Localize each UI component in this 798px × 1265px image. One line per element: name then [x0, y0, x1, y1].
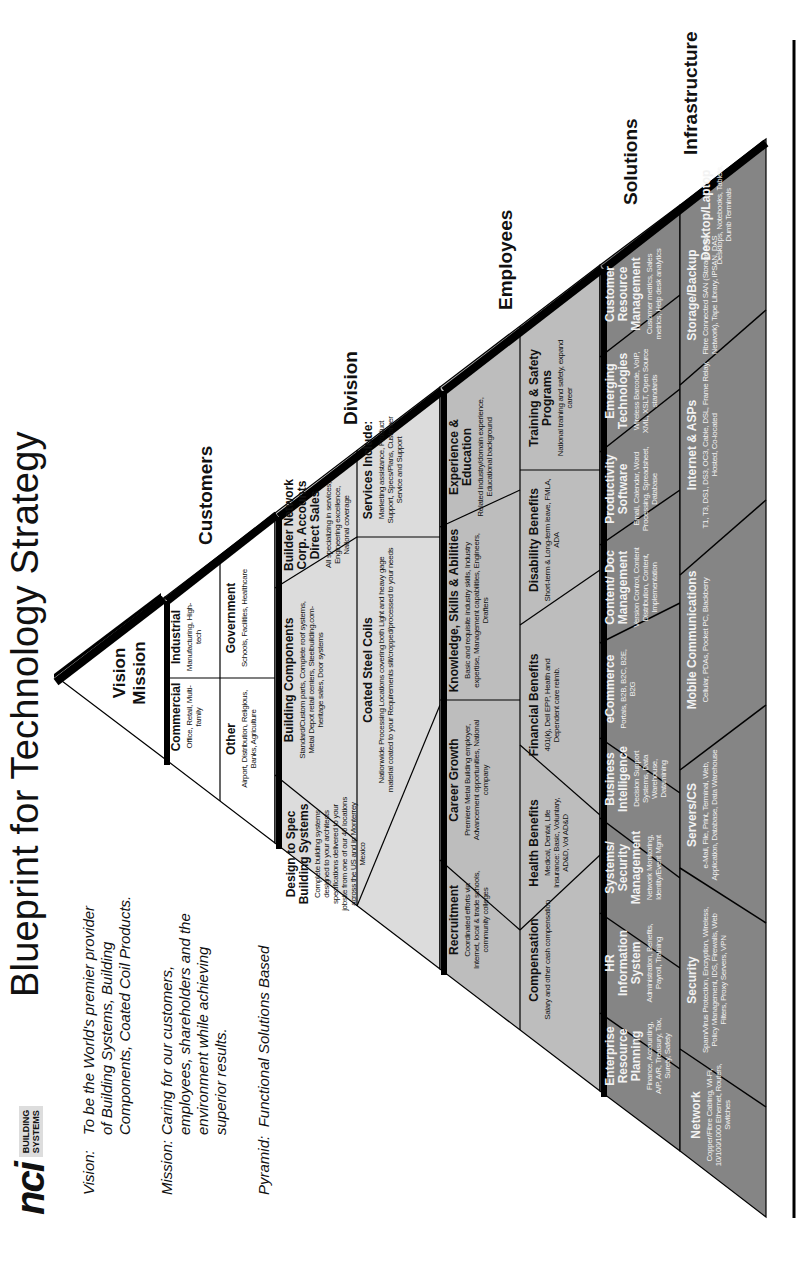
tier-label-infrastructure: Infrastructure — [680, 31, 702, 155]
company-logo: nci BUILDING SYSTEMS — [8, 1106, 53, 1215]
customer-government: Government Schools, Facilities, Healthca… — [225, 563, 249, 673]
cell-title: Business Intelligence — [604, 741, 630, 817]
cell-desc: Marketing assistance, Product Support, S… — [377, 410, 404, 530]
cell-desc: Customer metrics, Sales metrics, Help de… — [645, 248, 663, 340]
cell-title: Commercial — [170, 681, 183, 753]
cell-title: Emerging Technologies — [604, 343, 630, 439]
apex-vision-mission: Vision Mission — [110, 628, 150, 718]
cell-title: HR Information System — [604, 923, 643, 1003]
infra-servers-cs: Servers/CS e-Mail, File, Print, Terminal… — [686, 745, 719, 885]
cell-title: Servers/CS — [686, 745, 699, 885]
cell-title: Recruitment — [448, 870, 461, 970]
cell-title: Training & Safety Programs — [528, 333, 554, 463]
infra-mobile-communications: Mobile Communications Cellular, PDAs, Po… — [686, 550, 710, 730]
solution-erp: Enterprise Resource Planning Finance, Ac… — [604, 1017, 672, 1095]
cell-title: Disability Benefits — [528, 475, 541, 605]
mission-line: superior results. — [212, 885, 230, 1135]
cell-title: Building Components — [283, 595, 296, 765]
tier-label-solutions: Solutions — [620, 118, 642, 205]
vision-text: To be the World's premier provider of Bu… — [80, 885, 134, 1135]
cell-title: Industrial — [170, 601, 183, 673]
cell-desc: Short-term & Long-term leave, FMLA, ADA — [543, 475, 561, 605]
customer-commercial: Commercial Office, Retail, Multi-family — [170, 681, 203, 753]
cell-desc: T1, T3, DS1, DS3, OC3, Cable, DSL, Frame… — [701, 360, 719, 530]
cell-desc: Standard/Custom parts, Complete roof sys… — [298, 595, 325, 765]
cell-desc: Related industry/domain experience, Educ… — [476, 397, 494, 517]
cell-desc: Medical, Dental, Life Insurance: Basic, … — [543, 793, 570, 893]
cell-desc: Spam/Virus Protection, Encryption, Wirel… — [701, 905, 728, 1055]
cell-title: Career Growth — [448, 705, 461, 855]
cell-desc: Email, Calendar, Word Processing, Spread… — [632, 443, 659, 535]
cell-desc: Basic and requisite industry skills, Ind… — [463, 528, 490, 693]
cell-desc: All specializing in services, Engineerin… — [324, 475, 351, 575]
infra-internet-asps: Internet & ASPs T1, T3, DS1, DS3, OC3, C… — [686, 360, 719, 530]
cell-desc: Premiere Metal Building employer, Advanc… — [463, 705, 490, 855]
mission-text: Caring for our customers, employees, sha… — [158, 885, 230, 1135]
cell-desc: Administration, Benefits, Payroll, Train… — [645, 923, 663, 1003]
cell-desc: Decision Support Systems, Data Warehouse… — [632, 741, 668, 817]
infra-desktop-laptop: Desktop/Laptop Desktops, Notebooks, Tabl… — [700, 165, 733, 265]
cell-title: Network — [690, 1060, 703, 1170]
tier-label-customers: Customers — [195, 446, 217, 545]
cell-desc: Version Control, Content Distribution, C… — [632, 540, 659, 635]
cell-desc: Airport, Distribution, Religious, Banks,… — [240, 683, 258, 795]
cell-desc: Copper/Fibre Cabling, Wi-Fi, 10/100/1000… — [705, 1060, 732, 1170]
vision-line: of Building Systems, Building — [98, 885, 116, 1135]
cell-desc: Coordinated efforts via Internet, local … — [463, 870, 490, 970]
vision-line: To be the World's premier provider — [80, 885, 98, 1135]
cell-desc: Desktops, Notebooks, Tablets, Dumb Termi… — [715, 165, 733, 265]
customer-industrial: Industrial Manufacturing, High-tech — [170, 601, 203, 673]
cell-title: Internet & ASPs — [686, 360, 699, 530]
cell-title: Design to Spec Building Systems — [285, 795, 311, 913]
solution-productivity-software: Productivity Software Email, Calendar, W… — [604, 443, 659, 535]
division-building-components: Building Components Standard/Custom part… — [283, 595, 325, 765]
cell-title: Desktop/Laptop — [700, 165, 713, 265]
cell-desc: Wireless Barcode, VoIP, XML, XSLT, Open … — [632, 343, 659, 439]
logo-mark: nci — [8, 1163, 53, 1215]
pyramid-text: Functional Solutions Based — [255, 946, 272, 1128]
cell-title: Enterprise Resource Planning — [604, 1017, 643, 1095]
cell-desc: Finance, Accounting, A/P, A/R, Treasury,… — [645, 1017, 672, 1095]
solution-business-intelligence: Business Intelligence Decision Support S… — [604, 741, 668, 817]
page-title: Blueprint for Technology Strategy — [4, 431, 47, 997]
cell-title: Customer Resource Management — [604, 248, 643, 340]
solution-emerging-technologies: Emerging Technologies Wireless Barcode, … — [604, 343, 659, 439]
cell-title: Government — [225, 563, 238, 673]
employees-training-safety: Training & Safety Programs National trai… — [528, 333, 574, 463]
employees-health-benefits: Health Benefits Medical, Dental, Life In… — [528, 793, 570, 893]
cell-title: Services Include: — [362, 410, 375, 530]
pyramid-statement: Pyramid: Functional Solutions Based — [255, 895, 273, 1195]
cell-title: Storage/Backup — [686, 230, 699, 360]
cell-desc: e-Mail, File, Print, Terminal, Web, Appl… — [701, 745, 719, 885]
solution-hr-information-system: HR Information System Administration, Be… — [604, 923, 663, 1003]
cell-desc: Manufacturing, High-tech — [185, 601, 203, 673]
cell-title: Health Benefits — [528, 793, 541, 893]
solution-customer-resource-management: Customer Resource Management Customer me… — [604, 248, 663, 340]
cell-desc: Nationwide Processing Locations covering… — [377, 545, 395, 795]
employees-compensation: Compensation Salary and other cash compe… — [528, 895, 552, 1025]
employees-financial-benefits: Financial Benefits 401(k), Dell EPP, Hea… — [528, 645, 561, 765]
slide: nci BUILDING SYSTEMS Blueprint for Techn… — [0, 0, 798, 1265]
cell-desc: Network Monitoring, Identity/Event Mgmt — [645, 825, 663, 910]
solution-ecommerce: eCommerce Portals, B2B, B2C, B2E, B2G — [604, 643, 637, 735]
employees-recruitment: Recruitment Coordinated efforts via Inte… — [448, 870, 490, 970]
logo-subtitle-line1: BUILDING — [21, 1110, 31, 1154]
cell-title: Mobile Communications — [686, 550, 699, 730]
cell-title: Knowledge, Skills & Abilities — [448, 528, 461, 693]
cell-desc: National training and safety, expand car… — [556, 333, 574, 463]
cell-title: Productivity Software — [604, 443, 630, 535]
customer-other: Other Airport, Distribution, Religious, … — [225, 683, 258, 795]
infra-network: Network Copper/Fibre Cabling, Wi-Fi, 10/… — [690, 1060, 732, 1170]
cell-title: Builder Network Corp. Accounts Direct Sa… — [283, 475, 322, 575]
cell-title: Systems/ Security Management — [604, 825, 643, 910]
division-coated-steel-coils: Coated Steel Coils Nationwide Processing… — [362, 545, 395, 795]
employees-disability-benefits: Disability Benefits Short-term & Long-te… — [528, 475, 561, 605]
infra-security: Security Spam/Virus Protection, Encrypti… — [686, 905, 728, 1055]
cell-title: eCommerce — [604, 643, 617, 735]
apex-vision: Vision — [110, 628, 130, 718]
mission-label: Mission: — [158, 1140, 175, 1195]
vision-line: Components, Coated Coil Products. — [116, 885, 134, 1135]
cell-title: Compensation — [528, 895, 541, 1025]
cell-desc: 401(k), Dell EPP, Health and Dependent c… — [543, 645, 561, 765]
vision-label: Vision: — [80, 1150, 97, 1195]
